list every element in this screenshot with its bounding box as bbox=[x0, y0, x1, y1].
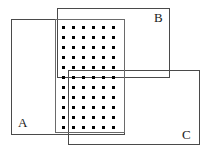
grid-dot bbox=[92, 86, 95, 89]
grid-dot bbox=[112, 76, 115, 79]
grid-dot bbox=[102, 76, 105, 79]
grid-dot bbox=[72, 76, 75, 79]
grid-dot bbox=[102, 96, 105, 99]
grid-dot bbox=[102, 106, 105, 109]
grid-dot bbox=[92, 56, 95, 59]
grid-dot bbox=[82, 76, 85, 79]
grid-dot bbox=[112, 26, 115, 29]
grid-dot bbox=[82, 66, 85, 69]
rectangle-a-label: A bbox=[18, 116, 27, 129]
grid-dot bbox=[62, 106, 65, 109]
grid-dot bbox=[102, 116, 105, 119]
dot-grid bbox=[56, 20, 124, 132]
grid-dot bbox=[62, 26, 65, 29]
grid-dot bbox=[112, 116, 115, 119]
grid-dot bbox=[92, 96, 95, 99]
grid-dot bbox=[102, 126, 105, 129]
grid-dot bbox=[82, 56, 85, 59]
grid-dot bbox=[62, 126, 65, 129]
grid-dot bbox=[92, 46, 95, 49]
grid-dot bbox=[92, 66, 95, 69]
grid-dot bbox=[82, 126, 85, 129]
grid-dot bbox=[102, 56, 105, 59]
figure-canvas: A B C bbox=[0, 0, 210, 158]
grid-dot bbox=[112, 56, 115, 59]
grid-dot bbox=[112, 96, 115, 99]
grid-dot bbox=[82, 46, 85, 49]
dotted-region bbox=[55, 19, 125, 133]
grid-dot bbox=[72, 66, 75, 69]
grid-dot bbox=[82, 36, 85, 39]
grid-dot bbox=[112, 86, 115, 89]
grid-dot bbox=[92, 106, 95, 109]
grid-dot bbox=[82, 116, 85, 119]
grid-dot bbox=[82, 86, 85, 89]
grid-dot bbox=[102, 46, 105, 49]
grid-dot bbox=[112, 126, 115, 129]
grid-dot bbox=[72, 86, 75, 89]
grid-dot bbox=[92, 26, 95, 29]
grid-dot bbox=[92, 116, 95, 119]
grid-dot bbox=[82, 96, 85, 99]
grid-dot bbox=[92, 76, 95, 79]
grid-dot bbox=[72, 106, 75, 109]
rectangle-b-label: B bbox=[154, 11, 163, 24]
grid-dot bbox=[72, 56, 75, 59]
grid-dot bbox=[102, 36, 105, 39]
grid-dot bbox=[72, 36, 75, 39]
grid-dot bbox=[92, 126, 95, 129]
grid-dot bbox=[102, 86, 105, 89]
grid-dot bbox=[112, 106, 115, 109]
grid-dot bbox=[72, 96, 75, 99]
grid-dot bbox=[62, 116, 65, 119]
grid-dot bbox=[62, 76, 65, 79]
grid-dot bbox=[62, 36, 65, 39]
grid-dot bbox=[82, 26, 85, 29]
grid-dot bbox=[62, 46, 65, 49]
grid-dot bbox=[92, 36, 95, 39]
grid-dot bbox=[102, 66, 105, 69]
grid-dot bbox=[102, 26, 105, 29]
grid-dot bbox=[72, 116, 75, 119]
grid-dot bbox=[72, 126, 75, 129]
grid-dot bbox=[72, 46, 75, 49]
grid-dot bbox=[62, 96, 65, 99]
grid-dot bbox=[112, 46, 115, 49]
grid-dot bbox=[62, 56, 65, 59]
grid-dot bbox=[62, 66, 65, 69]
grid-dot bbox=[112, 36, 115, 39]
grid-dot bbox=[62, 86, 65, 89]
grid-dot bbox=[72, 26, 75, 29]
rectangle-c-label: C bbox=[182, 128, 191, 141]
grid-dot bbox=[112, 66, 115, 69]
grid-dot bbox=[82, 106, 85, 109]
